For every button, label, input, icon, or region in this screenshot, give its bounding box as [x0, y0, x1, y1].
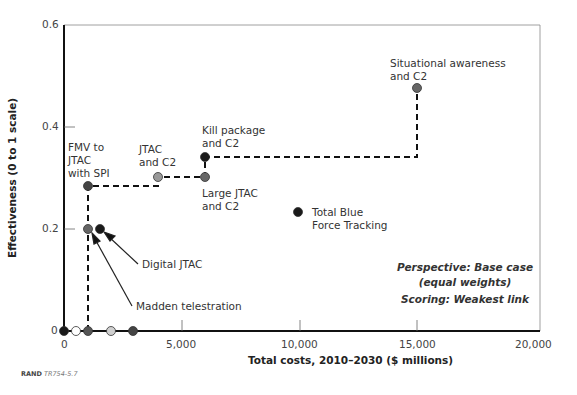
- point-fmv: [84, 182, 93, 191]
- point-axis-2000: [107, 327, 116, 336]
- label-madden: Madden telestration: [136, 300, 242, 313]
- x-tick-20000: 20,000: [515, 338, 552, 350]
- x-axis-label: Total costs, 2010–2030 ($ millions): [248, 354, 453, 366]
- label-digital-jtac: Digital JTAC: [142, 258, 202, 271]
- source-org: RAND: [21, 370, 42, 378]
- point-origin: [60, 327, 69, 336]
- point-axis-1000: [84, 327, 93, 336]
- x-tick-5000: 5,000: [166, 338, 196, 350]
- perspective-note: Perspective: Base case (equal weights) S…: [390, 260, 540, 307]
- y-tick-0.2: 0.2: [42, 222, 59, 234]
- point-axis-3000: [129, 327, 138, 336]
- x-tick-15000: 15,000: [399, 338, 436, 350]
- point-situational-awareness: [413, 84, 422, 93]
- point-jtac-c2: [154, 173, 163, 182]
- point-tbft: [294, 208, 303, 217]
- y-tick-0.4: 0.4: [42, 120, 59, 132]
- label-situational-awareness: Situational awareness and C2: [390, 57, 506, 83]
- label-fmv: FMV to JTAC with SPI: [68, 141, 110, 180]
- source-caption: RAND TR754-5.7: [21, 370, 78, 378]
- y-axis-label: Effectiveness (0 to 1 scale): [6, 98, 18, 258]
- point-kill-package: [201, 153, 210, 162]
- y-tick-0: 0: [51, 324, 58, 336]
- x-tick-10000: 10,000: [281, 338, 318, 350]
- x-ticks: [182, 320, 417, 331]
- y-tick-0.6: 0.6: [42, 18, 59, 30]
- point-digital-jtac: [96, 225, 105, 234]
- point-white: [72, 327, 81, 336]
- annotation-arrows: [92, 232, 138, 306]
- label-tbft: Total Blue Force Tracking: [312, 206, 387, 232]
- label-jtac-c2: JTAC and C2: [139, 143, 176, 169]
- point-madden: [84, 225, 93, 234]
- label-large-jtac: Large JTAC and C2: [202, 187, 258, 213]
- label-kill-package: Kill package and C2: [202, 124, 265, 150]
- point-large-jtac: [201, 173, 210, 182]
- x-tick-0: 0: [61, 338, 68, 350]
- source-id: TR754-5.7: [44, 370, 78, 378]
